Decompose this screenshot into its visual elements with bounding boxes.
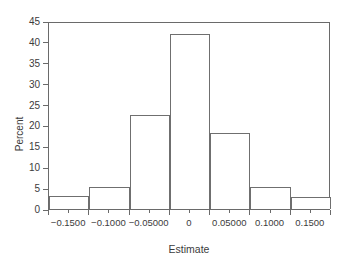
histogram-bar	[291, 197, 331, 209]
x-tick-mark-minor	[229, 210, 230, 213]
y-tick-label: 15	[29, 140, 40, 153]
histogram-bar	[170, 34, 210, 209]
histogram-chart: 051015202530354045 Percent −0.1500−0.100…	[0, 0, 341, 268]
y-tick-label: 35	[29, 57, 40, 70]
x-tick-mark-major	[129, 210, 130, 215]
x-tick-mark-major	[169, 210, 170, 215]
x-tick-mark-major	[330, 210, 331, 215]
x-tick-mark-minor	[68, 210, 69, 213]
y-axis-title: Percent	[14, 117, 25, 151]
x-tick-mark-minor	[189, 210, 190, 213]
histogram-bar	[130, 115, 170, 209]
x-tick-label: −0.1500	[51, 217, 86, 229]
x-tick-mark-minor	[108, 210, 109, 213]
y-tick-label: 30	[29, 78, 40, 91]
x-tick-mark-major	[48, 210, 49, 215]
x-tick-mark-major	[249, 210, 250, 215]
y-tick-label: 0	[34, 203, 40, 216]
y-tick-label: 25	[29, 99, 40, 112]
x-tick-label: 0.1000	[255, 217, 284, 229]
x-tick-mark-minor	[310, 210, 311, 213]
y-tick-label: 40	[29, 36, 40, 49]
x-tick-mark-minor	[149, 210, 150, 213]
y-tick-label: 20	[29, 119, 40, 132]
y-tick-label: 5	[34, 182, 40, 195]
plot-area	[48, 22, 330, 210]
histogram-bar	[89, 187, 129, 209]
x-tick-mark-major	[290, 210, 291, 215]
x-tick-label: 0.05000	[212, 217, 246, 229]
x-tick-mark-major	[209, 210, 210, 215]
histogram-bar	[250, 187, 290, 209]
histogram-bar	[49, 196, 89, 209]
x-tick-label: −0.05000	[129, 217, 169, 229]
x-axis-title: Estimate	[48, 243, 330, 255]
x-tick-label: 0.1500	[295, 217, 324, 229]
x-tick-label: −0.1000	[91, 217, 126, 229]
x-tick-mark-major	[88, 210, 89, 215]
y-tick-label: 10	[29, 161, 40, 174]
bars-layer	[49, 23, 329, 209]
x-tick-mark-minor	[270, 210, 271, 213]
y-tick-label: 45	[29, 15, 40, 28]
histogram-bar	[210, 133, 250, 209]
x-tick-label: 0	[186, 217, 191, 229]
